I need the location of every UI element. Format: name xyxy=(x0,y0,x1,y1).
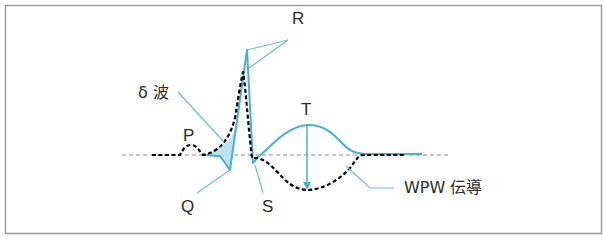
label-p: P xyxy=(183,126,194,145)
ecg-wpw-diagram: R δ 波 P T Q S WPW 伝導 xyxy=(0,0,603,242)
label-s: S xyxy=(262,197,273,216)
label-wpw-conduction: WPW 伝導 xyxy=(404,178,482,197)
q-leader xyxy=(197,170,230,193)
label-delta-wave: δ 波 xyxy=(138,83,169,102)
label-t: T xyxy=(301,100,311,119)
r-leader xyxy=(247,40,288,68)
figure-frame xyxy=(6,6,602,234)
label-q: Q xyxy=(181,197,194,216)
wpw-leader xyxy=(346,166,394,188)
s-leader xyxy=(255,165,263,193)
label-r: R xyxy=(292,9,304,28)
